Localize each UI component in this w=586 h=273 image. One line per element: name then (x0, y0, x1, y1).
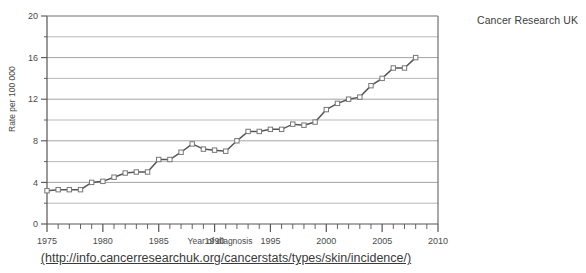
data-point-marker (279, 127, 283, 131)
y-tick-label: 12 (28, 94, 38, 104)
data-point-marker (168, 157, 172, 161)
data-point-marker (380, 76, 384, 80)
data-point-marker (56, 187, 60, 191)
data-point-marker (369, 83, 373, 87)
data-point-marker (257, 129, 261, 133)
data-point-marker (324, 107, 328, 111)
source-url-text: (http://info.cancerresearchuk.org/cancer… (41, 251, 411, 265)
y-tick-label: 20 (28, 11, 38, 21)
line-chart-canvas: 0481216201975198019851990199520002005201… (0, 0, 586, 273)
data-point-marker (101, 179, 105, 183)
data-point-marker (346, 97, 350, 101)
y-tick-label: 4 (33, 178, 38, 188)
data-point-marker (246, 129, 250, 133)
y-tick-label: 8 (33, 136, 38, 146)
chart-credit: Cancer Research UK (477, 14, 578, 26)
data-point-marker (112, 175, 116, 179)
x-axis-label: Year of diagnosis (0, 236, 440, 246)
data-point-marker (89, 180, 93, 184)
data-point-marker (123, 171, 127, 175)
data-point-marker (413, 55, 417, 59)
data-point-marker (190, 142, 194, 146)
data-point-marker (224, 149, 228, 153)
data-point-marker (335, 101, 339, 105)
data-point-marker (402, 66, 406, 70)
data-series-line (47, 58, 416, 191)
data-point-marker (302, 123, 306, 127)
data-point-marker (212, 148, 216, 152)
data-point-marker (201, 147, 205, 151)
data-point-marker (235, 139, 239, 143)
y-tick-label: 0 (33, 219, 38, 229)
data-point-marker (358, 95, 362, 99)
data-point-marker (391, 66, 395, 70)
y-tick-label: 16 (28, 53, 38, 63)
y-axis-label: Rate per 100 000 (7, 118, 17, 132)
data-point-marker (313, 120, 317, 124)
data-point-marker (67, 187, 71, 191)
source-url-line: (http://info.cancerresearchuk.org/cancer… (0, 251, 452, 265)
chart-figure: 0481216201975198019851990199520002005201… (0, 0, 586, 273)
data-point-marker (157, 157, 161, 161)
data-point-marker (134, 170, 138, 174)
data-point-marker (78, 187, 82, 191)
data-point-marker (291, 122, 295, 126)
data-point-marker (179, 150, 183, 154)
data-point-marker (145, 170, 149, 174)
data-point-marker (45, 189, 49, 193)
data-point-marker (268, 127, 272, 131)
